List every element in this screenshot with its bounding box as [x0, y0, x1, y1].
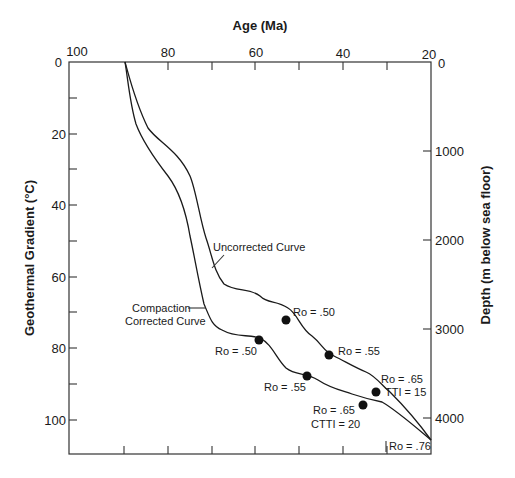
ro-label: Ro = .65: [381, 373, 423, 385]
ro-marker: [325, 351, 334, 360]
ro-marker: [255, 336, 264, 345]
left-ticks: [69, 98, 77, 420]
uncorrected-leader: [212, 255, 224, 268]
corrected-curve-label-2: Corrected Curve: [125, 315, 206, 327]
ro-marker: [372, 388, 381, 397]
ro-marker: [282, 316, 291, 325]
left-tick-label: 40: [52, 198, 66, 213]
top-tick-label: 20: [422, 47, 436, 62]
top-tick-label: 100: [66, 44, 88, 59]
tti-label: TTI = 15: [385, 386, 426, 398]
ro-label: Ro = .55: [338, 345, 380, 357]
right-tick-label: 0: [438, 56, 445, 71]
left-tick-label: 60: [52, 270, 66, 285]
top-axis-title: Age (Ma): [233, 18, 288, 33]
right-tick-label: 2000: [435, 233, 464, 248]
top-tick-label: 40: [336, 46, 350, 61]
right-tick-label: 4000: [435, 411, 464, 426]
left-tick-label: 100: [44, 413, 66, 428]
ro-marker: [359, 401, 368, 410]
top-tick-label: 80: [161, 45, 175, 60]
left-tick-label: 80: [52, 341, 66, 356]
top-ticks: [168, 62, 387, 70]
right-tick-label: 3000: [435, 322, 464, 337]
ro-label: Ro = .55: [264, 381, 306, 393]
corrected-curve-label-1: Compaction: [132, 302, 191, 314]
right-tick-label: 1000: [435, 144, 464, 159]
left-tick-label: 0: [55, 55, 62, 70]
bottom-ticks: [124, 446, 387, 454]
right-axis-title: Depth (m below sea floor): [478, 166, 493, 325]
ro-label: Ro = .65: [313, 404, 355, 416]
right-ticks: [423, 151, 431, 418]
left-axis-title: Geothermal Gradient (°C): [22, 180, 37, 336]
ro-label: Ro = .50: [215, 345, 257, 357]
uncorrected-curve-label: Uncorrected Curve: [213, 241, 305, 253]
ctti-label: CTTI = 20: [311, 418, 360, 430]
ro-label: Ro = .50: [293, 306, 335, 318]
endpoint-label: Ro = .76: [389, 440, 431, 452]
top-tick-label: 60: [249, 45, 263, 60]
ro-marker: [303, 372, 312, 381]
geothermal-chart: Age (Ma) 100 80 60 40 20 0: [0, 0, 515, 478]
left-tick-label: 20: [52, 127, 66, 142]
